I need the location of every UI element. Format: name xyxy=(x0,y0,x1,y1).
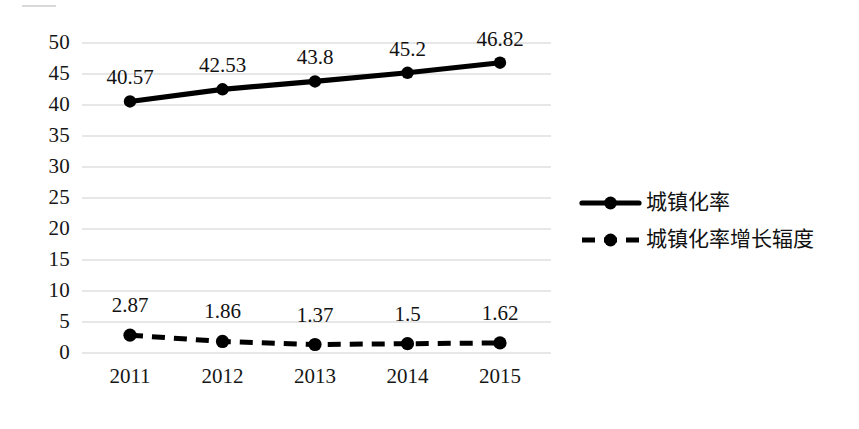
data-point-label: 46.82 xyxy=(454,29,546,50)
data-point[interactable] xyxy=(216,83,228,95)
data-point-label: 1.5 xyxy=(362,304,454,325)
legend-item-label-1[interactable]: 城镇化率 xyxy=(646,191,730,213)
data-point-label: 45.2 xyxy=(362,39,454,60)
x-axis-tick-label: 2013 xyxy=(270,366,360,387)
x-axis-tick-label: 2012 xyxy=(178,366,268,387)
x-axis-tick-label: 2015 xyxy=(455,366,545,387)
legend-marker-dot-2 xyxy=(604,234,617,247)
data-point[interactable] xyxy=(309,75,321,87)
legend-item-label-2[interactable]: 城镇化率增长辐度 xyxy=(646,228,814,250)
data-point[interactable] xyxy=(401,67,413,79)
legend-markers xyxy=(582,197,639,247)
data-point[interactable] xyxy=(493,336,506,349)
x-axis-tick-label: 2014 xyxy=(363,366,453,387)
data-point-label: 2.87 xyxy=(84,295,176,316)
data-point-label: 1.37 xyxy=(269,305,361,326)
data-point-label: 1.86 xyxy=(177,301,269,322)
data-point[interactable] xyxy=(308,338,321,351)
data-point-label: 43.8 xyxy=(269,47,361,68)
legend-marker-dot-1 xyxy=(604,197,617,210)
data-point[interactable] xyxy=(401,337,414,350)
data-point[interactable] xyxy=(123,329,136,342)
data-point-label: 42.53 xyxy=(177,55,269,76)
data-point[interactable] xyxy=(494,57,506,69)
data-point-label: 40.57 xyxy=(84,67,176,88)
chart-container: 50454035302520151050 40.5742.5343.845.24… xyxy=(0,0,859,429)
data-point-label: 1.62 xyxy=(454,303,546,324)
data-point[interactable] xyxy=(216,335,229,348)
x-axis-tick-label: 2011 xyxy=(85,366,175,387)
data-point[interactable] xyxy=(124,95,136,107)
